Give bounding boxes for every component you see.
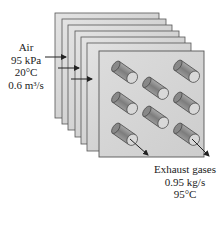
exhaust-label-massflow: 0.95 kg/s: [148, 176, 222, 189]
exhaust-label-name: Exhaust gases: [148, 163, 222, 176]
exhaust-outlet-label: Exhaust gases 0.95 kg/s 95°C: [148, 163, 222, 201]
air-label-name: Air: [4, 41, 48, 54]
exhaust-label-temperature: 95°C: [148, 188, 222, 201]
air-label-flowrate: 0.6 m³/s: [4, 79, 48, 92]
air-inlet-label: Air 95 kPa 20°C 0.6 m³/s: [4, 41, 48, 91]
air-label-temperature: 20°C: [4, 66, 48, 79]
air-label-pressure: 95 kPa: [4, 54, 48, 67]
